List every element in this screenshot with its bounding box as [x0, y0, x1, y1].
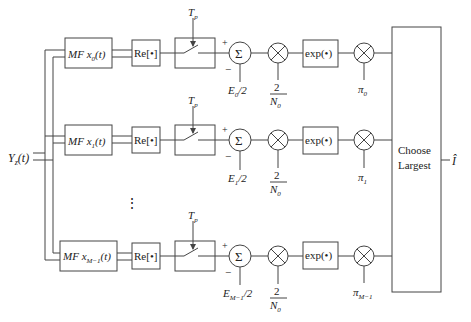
svg-text:2: 2 [274, 81, 280, 93]
gain-label-0: N0 [269, 95, 281, 110]
energy-label-0: E0/2 [227, 84, 247, 99]
svg-text:2: 2 [274, 169, 280, 181]
sigma-icon-1: Σ [235, 133, 243, 148]
svg-text:exp(•): exp(•) [305, 249, 332, 262]
choose-largest-block: Choose Largest [392, 27, 441, 292]
svg-text:exp(•): exp(•) [305, 134, 332, 147]
prior-label-m-1: πM−1 [353, 286, 373, 301]
svg-text:exp(•): exp(•) [305, 47, 332, 60]
svg-text:+: + [222, 240, 228, 251]
branch-m-1: MF xM−1(t) Re[•] Tp Σ + − EM−1/2 2 N0 ex… [60, 209, 392, 314]
svg-text:+: + [222, 124, 228, 135]
energy-label-m-1: EM−1/2 [222, 287, 253, 302]
prior-label-1: π1 [358, 171, 367, 186]
input-label: Yz(t) [8, 151, 29, 167]
real-part-label-0: Re[•] [134, 47, 157, 59]
svg-text:Re[•]: Re[•] [134, 134, 157, 146]
svg-text:−: − [225, 266, 231, 278]
svg-text:Choose: Choose [398, 144, 431, 156]
gain-label-1: N0 [269, 183, 281, 198]
svg-text:−: − [225, 150, 231, 162]
sigma-icon-0: Σ [235, 46, 243, 61]
gain-label-m-1: N0 [269, 299, 281, 314]
svg-text:−: − [225, 63, 231, 75]
svg-text:Yz(t): Yz(t) [8, 151, 29, 167]
energy-label-1: E1/2 [227, 172, 247, 187]
ellipsis: ⋮ [125, 196, 139, 211]
prior-label-0: π0 [358, 83, 368, 98]
svg-text:2: 2 [274, 285, 280, 297]
output-label: Î [451, 154, 457, 168]
svg-text:Re[•]: Re[•] [134, 250, 157, 262]
sigma-icon-m-1: Σ [235, 249, 243, 264]
receiver-diagram: Yz(t) MF x0(t) Re[•] Tp Σ + − E0/2 [0, 0, 471, 322]
branch-0: MF x0(t) Re[•] Tp Σ + − E0/2 2 N0 exp(•) [65, 6, 392, 110]
svg-text:+: + [222, 37, 228, 48]
svg-text:Largest: Largest [398, 159, 431, 171]
branch-1: MF x1(t) Re[•] Tp Σ + − E1/2 2 N0 exp(•) [65, 94, 392, 198]
